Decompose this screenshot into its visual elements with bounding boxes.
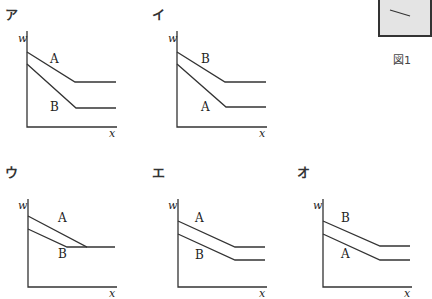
series-label-upper: B (341, 211, 350, 225)
line-upper (178, 221, 265, 247)
axes (28, 199, 117, 287)
y-axis-label: w (313, 199, 323, 212)
line-upper (323, 221, 410, 246)
graph-i (177, 31, 267, 127)
series-label-lower: B (195, 248, 204, 262)
axes (27, 31, 117, 127)
series-label-upper: A (194, 211, 204, 225)
x-axis-label: x (259, 287, 266, 299)
graph-a (27, 31, 117, 127)
graph-e (178, 199, 267, 287)
x-axis-label: x (404, 287, 411, 299)
line-upper (28, 216, 115, 247)
x-axis-label: x (109, 287, 116, 299)
series-label-upper: B (201, 52, 210, 66)
series-label-lower: A (340, 247, 350, 261)
x-axis-label: x (259, 127, 266, 140)
y-axis-label: w (18, 32, 28, 45)
y-axis-label: w (168, 199, 178, 212)
y-axis-label: w (168, 32, 178, 45)
axes (177, 31, 267, 127)
graph-o (323, 199, 412, 287)
line-upper (177, 52, 266, 82)
line-lower (27, 64, 116, 108)
axes (178, 199, 267, 287)
series-label-lower: B (50, 100, 59, 114)
line-lower (177, 64, 266, 107)
series-label-upper: A (49, 52, 59, 66)
graph-u (28, 199, 117, 287)
x-axis-label: x (109, 127, 116, 140)
line-lower (323, 234, 410, 260)
line-upper (27, 52, 116, 82)
series-label-lower: B (58, 247, 67, 261)
axes (323, 199, 412, 287)
series-label-upper: A (57, 211, 67, 225)
y-axis-label: w (18, 199, 28, 212)
series-label-lower: A (200, 100, 210, 114)
